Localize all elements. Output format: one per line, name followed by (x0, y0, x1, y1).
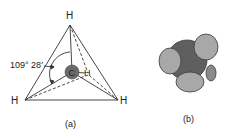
arrowhead-icon (51, 65, 54, 69)
bond-left (25, 72, 72, 100)
hydrogen-label-right: H (120, 95, 127, 106)
caption-a: (a) (65, 119, 76, 129)
hydrogen-label-left: H (11, 95, 18, 106)
hydrogen-sphere-back (206, 65, 216, 81)
methane-figure: C H H H H 109° 28′ (a) (b) (0, 0, 228, 135)
bond-angle-label: 109° 28′ (10, 60, 43, 70)
dashed-edge-left-back (25, 75, 88, 100)
hydrogen-sphere-top-right (194, 34, 218, 60)
hydrogen-label-top: H (66, 10, 73, 21)
carbon-label: C (69, 68, 76, 78)
space-filling-model (159, 34, 218, 92)
edge-top-right (70, 25, 118, 100)
hydrogen-sphere-bottom (176, 72, 204, 92)
hydrogen-sphere-left (159, 48, 181, 74)
bond-right (72, 72, 118, 100)
caption-b: (b) (183, 114, 194, 124)
hydrogen-label-back: H (84, 68, 91, 78)
dashed-edge-right-back (90, 76, 118, 100)
